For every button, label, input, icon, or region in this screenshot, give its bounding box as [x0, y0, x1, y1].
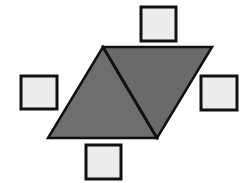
square-bottom [86, 145, 121, 179]
square-right [201, 76, 237, 110]
diagram-canvas [0, 0, 245, 183]
diagram-svg [0, 0, 245, 183]
square-top [141, 7, 176, 41]
square-left [21, 76, 57, 109]
